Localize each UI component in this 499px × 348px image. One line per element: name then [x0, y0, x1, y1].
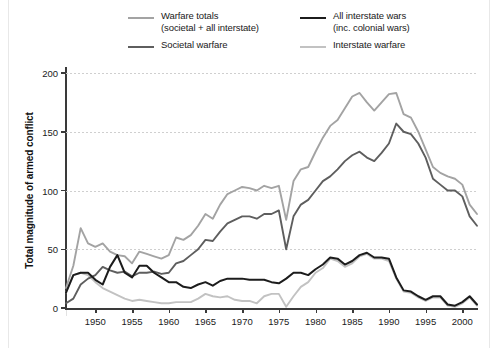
- x-tick-1950: [95, 308, 97, 313]
- x-tick-1990: [389, 308, 391, 313]
- legend-label-all_interstate_wars: All interstate wars (inc. colonial wars): [333, 10, 410, 33]
- x-tick-label-1960: 1960: [158, 316, 179, 327]
- legend-entry-all_interstate_wars: All interstate wars (inc. colonial wars): [300, 10, 410, 33]
- legend-entry-warfare_totals: Warfare totals (societal + all interstat…: [128, 10, 259, 33]
- x-tick-1985: [352, 308, 354, 313]
- x-tick-label-1995: 1995: [415, 316, 436, 327]
- x-tick-label-1965: 1965: [195, 316, 216, 327]
- legend-swatch-societal_warfare: [128, 46, 154, 48]
- x-tick-label-1955: 1955: [121, 316, 142, 327]
- legend-label-societal_warfare: Societal warfare: [161, 39, 228, 51]
- legend-entry-societal_warfare: Societal warfare: [128, 39, 259, 51]
- series-line-interstate_warfare: [66, 254, 477, 307]
- x-tick-1965: [205, 308, 207, 313]
- plot-area: 0501001502001950195519601965197019751980…: [66, 73, 477, 308]
- series-line-all_interstate_wars: [66, 253, 477, 306]
- x-tick-2000: [462, 308, 464, 313]
- y-tick-label-0: 0: [53, 303, 58, 314]
- legend-label-warfare_totals: Warfare totals (societal + all interstat…: [161, 10, 259, 33]
- legend-swatch-warfare_totals: [128, 17, 154, 19]
- legend-entry-interstate_warfare: Interstate warfare: [300, 39, 410, 51]
- chart-figure: Warfare totals (societal + all interstat…: [0, 0, 499, 348]
- y-axis-title-text: Total magnitude of armed conflict: [24, 112, 35, 269]
- page-rule-right: [489, 0, 490, 348]
- series-line-warfare_totals: [66, 93, 477, 288]
- x-tick-1995: [426, 308, 428, 313]
- series-lines: [66, 73, 477, 308]
- y-axis-title: Total magnitude of armed conflict: [22, 73, 36, 308]
- series-line-societal_warfare: [66, 124, 477, 304]
- x-tick-1970: [242, 308, 244, 313]
- x-tick-label-1950: 1950: [85, 316, 106, 327]
- x-tick-label-2000: 2000: [452, 316, 473, 327]
- x-tick-1980: [316, 308, 318, 313]
- x-tick-label-1975: 1975: [268, 316, 289, 327]
- y-tick-label-150: 150: [42, 126, 58, 137]
- x-tick-label-1990: 1990: [378, 316, 399, 327]
- x-tick-1975: [279, 308, 281, 313]
- legend-label-interstate_warfare: Interstate warfare: [333, 39, 405, 51]
- legend-column-1: Warfare totals (societal + all interstat…: [128, 10, 259, 57]
- legend-swatch-all_interstate_wars: [300, 17, 326, 19]
- legend-swatch-interstate_warfare: [300, 46, 326, 48]
- y-tick-label-100: 100: [42, 185, 58, 196]
- x-tick-1955: [132, 308, 134, 313]
- legend-column-2: All interstate wars (inc. colonial wars)…: [300, 10, 410, 57]
- x-tick-label-1985: 1985: [342, 316, 363, 327]
- x-tick-label-1970: 1970: [232, 316, 253, 327]
- x-axis-line: [65, 308, 478, 310]
- y-tick-label-50: 50: [47, 244, 58, 255]
- page-rule-left: [8, 0, 9, 348]
- y-tick-label-200: 200: [42, 68, 58, 79]
- chart-legend: Warfare totals (societal + all interstat…: [128, 10, 458, 62]
- x-tick-label-1980: 1980: [305, 316, 326, 327]
- x-tick-1960: [169, 308, 171, 313]
